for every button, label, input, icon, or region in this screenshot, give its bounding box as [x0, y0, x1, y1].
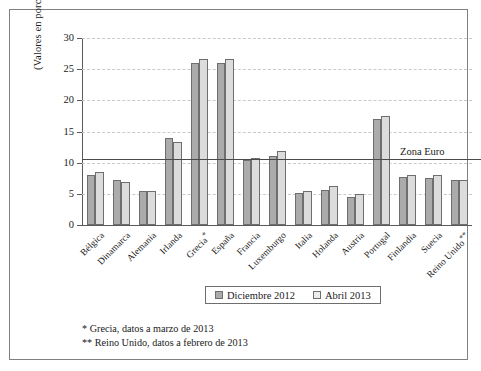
bar [407, 175, 416, 225]
bar-group [450, 38, 468, 225]
bar-group [320, 38, 338, 225]
bar [225, 59, 234, 225]
x-axis-label: España [210, 230, 236, 256]
bar [381, 116, 390, 225]
footnote-grecia: * Grecia, datos a marzo de 2013 [82, 322, 248, 336]
y-tick-label-25: 25 [64, 64, 75, 75]
bar-group [346, 38, 364, 225]
bar [399, 177, 408, 225]
bar-group [398, 38, 416, 225]
chart-legend: Diciembre 2012 Abril 2013 [205, 286, 381, 304]
x-axis-label: Italia [293, 230, 314, 251]
bar-group [372, 38, 390, 225]
bar [277, 151, 286, 225]
zona-euro-reference-line [82, 159, 481, 160]
y-tick-20 [77, 100, 82, 101]
bar-group [216, 38, 234, 225]
legend-item-0: Diciembre 2012 [215, 290, 295, 301]
legend-swatch-abril [313, 291, 321, 299]
bar [451, 180, 460, 226]
bar [459, 180, 468, 226]
bar-group [112, 38, 130, 225]
bar-group [190, 38, 208, 225]
legend-item-1: Abril 2013 [313, 290, 371, 301]
bar-group [138, 38, 156, 225]
x-axis-label: Holanda [310, 230, 340, 260]
bar [329, 186, 338, 225]
bar [173, 142, 182, 225]
bar [147, 191, 156, 225]
chart-footnotes: * Grecia, datos a marzo de 2013 ** Reino… [82, 322, 248, 351]
y-tick-0 [77, 225, 82, 226]
y-tick-5 [77, 194, 82, 195]
y-tick-label-5: 5 [69, 189, 74, 200]
bar [347, 197, 356, 225]
bar [303, 191, 312, 225]
x-axis-label: Irlanda [158, 230, 184, 256]
bar [251, 158, 260, 225]
bar [87, 175, 96, 225]
y-tick-label-0: 0 [69, 220, 74, 231]
bar-group [294, 38, 312, 225]
y-tick-label-10: 10 [64, 157, 75, 168]
bar [121, 182, 130, 225]
y-tick-10 [77, 163, 82, 164]
bar [425, 178, 434, 225]
bar [217, 63, 226, 225]
y-tick-30 [77, 38, 82, 39]
legend-label-abril: Abril 2013 [325, 290, 371, 301]
x-axis [82, 225, 472, 226]
bar-group [164, 38, 182, 225]
bar-group [86, 38, 104, 225]
y-tick-25 [77, 69, 82, 70]
y-tick-label-15: 15 [64, 126, 75, 137]
bar [295, 193, 304, 225]
y-axis-title: (Valores en porcentaje) [32, 0, 43, 70]
legend-label-diciembre: Diciembre 2012 [227, 290, 295, 301]
chart-frame: (Valores en porcentaje) 051015202530 Bél… [9, 9, 468, 360]
bar [113, 180, 122, 225]
bar-group [242, 38, 260, 225]
bar [373, 119, 382, 225]
bar [199, 59, 208, 225]
bar [165, 138, 174, 225]
bar [243, 160, 252, 225]
bar [95, 172, 104, 225]
bar [321, 190, 330, 225]
bar [139, 191, 148, 225]
y-tick-15 [77, 132, 82, 133]
x-axis-label: Grecia* [182, 230, 212, 260]
bar [191, 63, 200, 225]
bar-group [424, 38, 442, 225]
legend-swatch-diciembre [215, 291, 223, 299]
bar [355, 194, 364, 225]
zona-euro-label: Zona Euro [400, 146, 445, 157]
y-tick-label-30: 30 [64, 33, 75, 44]
plot-area: 051015202530 BélgicaDinamarcaAlemaniaIrl… [82, 38, 472, 225]
bar [433, 175, 442, 225]
y-tick-label-20: 20 [64, 95, 75, 106]
footnote-reino-unido: ** Reino Unido, datos a febrero de 2013 [82, 336, 248, 350]
bar [269, 156, 278, 225]
bar-group [268, 38, 286, 225]
